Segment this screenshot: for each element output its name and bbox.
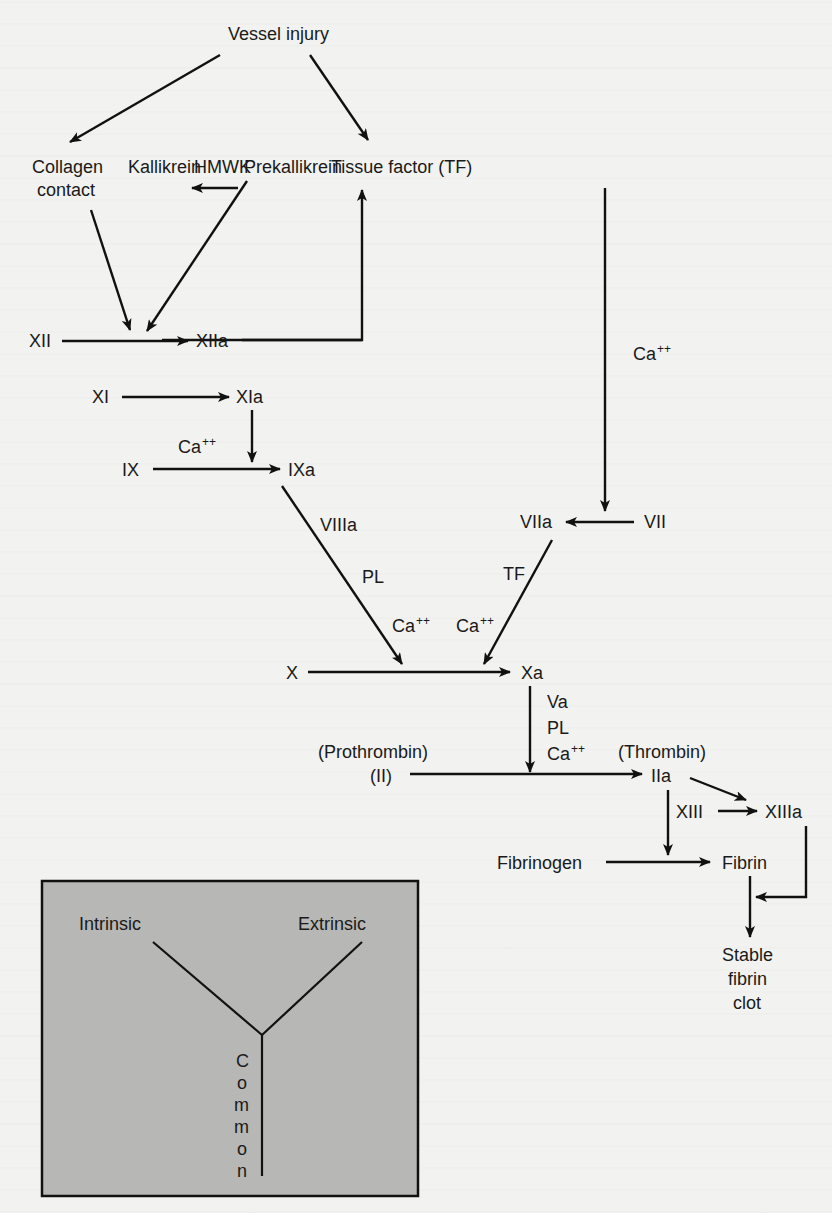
arrow-iia-to-xiiia (690, 778, 746, 800)
cofactor-tf: TF (503, 564, 525, 584)
legend-common-o1: o (237, 1073, 247, 1093)
cofactor-ca-common-sup: ++ (571, 742, 585, 756)
node-stable-clot-line3: clot (733, 993, 761, 1013)
node-xa: Xa (521, 663, 544, 683)
legend-extrinsic: Extrinsic (298, 914, 366, 934)
legend-common-n: n (237, 1161, 247, 1181)
coagulation-cascade-diagram: Vessel injury Collagen contact Kallikrei… (0, 0, 832, 1213)
node-xiia: XIIa (196, 331, 229, 351)
node-prekallikrein: Prekallikrein (244, 157, 342, 177)
arrow-viia-to-x (484, 540, 552, 664)
legend-common-o2: o (237, 1139, 247, 1159)
arrow-kallikrein-to-xii (147, 181, 247, 331)
pathway-legend: Intrinsic Extrinsic C o m m o n (42, 881, 418, 1196)
legend-intrinsic: Intrinsic (79, 914, 141, 934)
figure-page: Vessel injury Collagen contact Kallikrei… (0, 0, 832, 1213)
legend-common-m1: m (234, 1095, 249, 1115)
cofactor-ca-ix-sup: ++ (202, 435, 216, 449)
node-xia: XIa (236, 387, 264, 407)
arrow-collagen-to-xii (91, 210, 130, 330)
node-xiiia: XIIIa (765, 802, 803, 822)
node-tissue-factor: Tissue factor (TF) (331, 157, 472, 177)
node-xii: XII (29, 331, 51, 351)
cofactor-va: Va (547, 692, 569, 712)
node-xiii: XIII (676, 802, 703, 822)
cofactor-ca-intrinsic-x-sup: ++ (416, 614, 430, 628)
cofactor-ca-extrinsic-sup: ++ (657, 342, 671, 356)
node-kallikrein: Kallikrein (128, 157, 201, 177)
cofactor-ca-extrinsic-x: Ca (456, 616, 480, 636)
node-fibrinogen: Fibrinogen (497, 853, 582, 873)
cofactor-viiia: VIIIa (320, 515, 358, 535)
node-vii: VII (644, 512, 666, 532)
node-collagen-contact-line2: contact (37, 180, 95, 200)
node-thrombin-label: (Thrombin) (618, 742, 706, 762)
node-fibrin: Fibrin (722, 853, 767, 873)
legend-common-c: C (236, 1051, 249, 1071)
node-ii: (II) (370, 766, 392, 786)
node-stable-clot-line2: fibrin (728, 969, 767, 989)
cofactor-ca-common: Ca (547, 744, 571, 764)
node-viia: VIIa (520, 512, 553, 532)
node-vessel-injury: Vessel injury (228, 24, 329, 44)
node-x: X (286, 663, 298, 683)
cofactor-ca-extrinsic-x-sup: ++ (480, 614, 494, 628)
node-hmwk: HMWK (194, 157, 251, 177)
cofactor-ca-intrinsic-x: Ca (392, 616, 416, 636)
cofactor-ca-ix: Ca (178, 437, 202, 457)
arrow-injury-to-tf (310, 55, 368, 140)
node-xi: XI (92, 387, 109, 407)
node-iia: IIa (651, 766, 672, 786)
node-ix: IX (122, 460, 139, 480)
cofactor-pl-intrinsic: PL (362, 567, 384, 587)
cofactor-pl-common: PL (547, 718, 569, 738)
node-prothrombin-label: (Prothrombin) (318, 742, 428, 762)
arrow-injury-to-collagen (70, 55, 220, 142)
cofactor-ca-extrinsic: Ca (633, 344, 657, 364)
node-ixa: IXa (288, 460, 316, 480)
node-collagen-contact: Collagen (32, 157, 103, 177)
node-stable-clot: Stable (722, 945, 773, 965)
legend-common-m2: m (234, 1117, 249, 1137)
